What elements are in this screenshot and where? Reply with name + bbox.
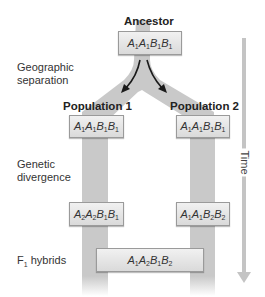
stage-label-genetic-divergence: Genetic divergence: [17, 158, 71, 184]
allele: A1: [192, 208, 203, 221]
f1-hybrid-genotype-box: A1 A2 B1 B2: [96, 248, 204, 272]
allele: A1: [181, 208, 192, 221]
population1-initial-genotype-box: A1 A1 B1 B1: [69, 115, 124, 138]
time-arrow-head: [237, 272, 251, 283]
allele: B1: [108, 120, 119, 133]
stage-label-f1-hybrids: F1 hybrids: [17, 254, 66, 271]
allele: A1: [128, 254, 139, 267]
allele: A1: [128, 37, 139, 50]
ancestor-label: Ancestor: [124, 15, 174, 27]
population2-initial-genotype-box: A1 A1 B1 B1: [176, 115, 230, 138]
allele: A1: [85, 120, 96, 133]
population2-diverged-genotype-box: A1 A1 B2 B2: [176, 202, 230, 226]
allele: A1: [192, 120, 203, 133]
allele: A2: [74, 208, 85, 221]
time-axis-label: Time: [239, 148, 250, 176]
allele: A1: [139, 37, 150, 50]
ancestor-genotype-box: A1 A1 B1 B1: [118, 31, 182, 55]
population2-label: Population 2: [170, 100, 239, 112]
allele: A1: [74, 120, 85, 133]
stage-label-geographic-separation: Geographic separation: [17, 61, 74, 87]
allele: B1: [97, 120, 108, 133]
allele: A2: [139, 254, 150, 267]
allele: B1: [150, 37, 161, 50]
allele: A2: [85, 208, 96, 221]
allele: B1: [150, 254, 161, 267]
allele: A1: [181, 120, 192, 133]
allele: B1: [203, 120, 214, 133]
population1-label: Population 1: [63, 100, 132, 112]
population1-diverged-genotype-box: A2 A2 B1 B1: [69, 202, 124, 226]
allele: B1: [161, 37, 172, 50]
allele: B2: [214, 208, 225, 221]
allele: B1: [97, 208, 108, 221]
allele: B2: [203, 208, 214, 221]
allele: B2: [161, 254, 172, 267]
allele: B1: [214, 120, 225, 133]
allele: B1: [108, 208, 119, 221]
